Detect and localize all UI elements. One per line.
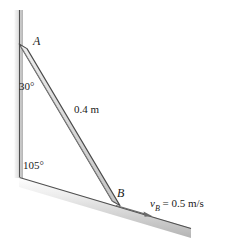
vertical-wall [14, 10, 23, 178]
label-velocity-b: vB = 0.5 m/s [150, 198, 204, 212]
physics-figure-rod-ab: A B 30° 105° 0.4 m vB = 0.5 m/s [0, 0, 225, 239]
label-angle-bottom-105: 105° [23, 160, 44, 171]
label-rod-length: 0.4 m [74, 104, 99, 115]
label-point-b: B [117, 187, 124, 199]
wall-shading-band [14, 10, 23, 178]
velocity-subscript: B [155, 204, 160, 213]
velocity-value: = 0.5 m/s [163, 197, 204, 209]
rod-highlight-line [21, 46, 114, 203]
velocity-arrow-head [144, 212, 152, 217]
label-angle-top-30: 30° [19, 81, 34, 92]
label-point-a: A [33, 35, 40, 47]
